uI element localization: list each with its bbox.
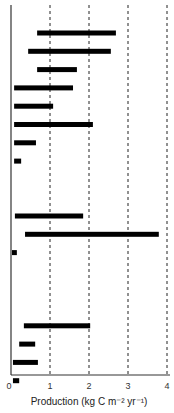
range-bar-9	[15, 214, 83, 219]
range-bar-7	[14, 140, 36, 145]
x-tick-label-0: 0	[6, 381, 11, 391]
range-bar-12	[24, 323, 90, 328]
range-bar-5	[14, 104, 53, 109]
range-bar-14	[13, 360, 38, 365]
range-bar-10	[25, 232, 159, 237]
gridlines	[50, 5, 167, 375]
x-axis-label: Production (kg C m⁻² yr⁻¹)	[31, 396, 148, 407]
range-bar-1	[37, 31, 116, 36]
range-bar-6	[14, 122, 93, 127]
x-tick-label-4: 4	[164, 381, 169, 391]
x-tick-label-3: 3	[125, 381, 130, 391]
x-tick-label-1: 1	[47, 381, 52, 391]
x-tick-label-2: 2	[86, 381, 91, 391]
range-bar-8	[14, 159, 21, 164]
range-bar-15	[13, 378, 19, 383]
bars	[12, 31, 159, 384]
range-bar-13	[19, 342, 35, 347]
range-bar-chart: 01234 Production (kg C m⁻² yr⁻¹)	[0, 0, 174, 413]
range-bar-2	[28, 49, 111, 54]
x-tick-labels: 01234	[6, 381, 169, 391]
range-bar-4	[14, 85, 73, 90]
range-bar-11	[12, 250, 17, 255]
range-bar-3	[37, 67, 77, 72]
